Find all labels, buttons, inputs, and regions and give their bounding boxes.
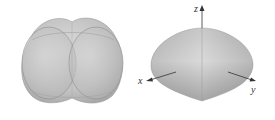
x-axis-arrowhead — [146, 78, 153, 82]
z-axis-arrowhead — [200, 5, 205, 11]
x-axis-label: x — [137, 75, 143, 86]
figure-canvas: z x y — [0, 0, 275, 120]
left-solid — [22, 18, 123, 103]
y-axis-label: y — [250, 84, 256, 95]
y-axis-arrowhead — [250, 78, 257, 82]
z-axis-label: z — [193, 3, 198, 14]
left-lobe-front-left — [22, 27, 76, 99]
right-solid — [151, 28, 253, 101]
left-lobe-front-right — [69, 27, 123, 99]
